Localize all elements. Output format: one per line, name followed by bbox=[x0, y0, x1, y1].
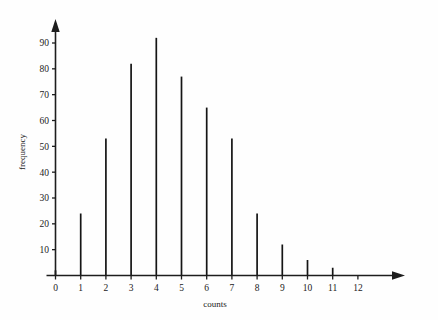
y-axis-tick-label: 90 bbox=[40, 38, 50, 48]
x-axis-arrowhead-icon bbox=[392, 271, 405, 279]
x-axis-tick-label: 8 bbox=[255, 283, 260, 293]
x-axis-tick-label: 0 bbox=[53, 283, 58, 293]
frequency-counts-spike-chart: 102030405060708090 0123456789101112 freq… bbox=[0, 0, 438, 320]
y-axis-tick-label: 80 bbox=[40, 64, 50, 74]
x-axis-tick-label: 9 bbox=[280, 283, 285, 293]
x-axis-tick-label: 7 bbox=[230, 283, 235, 293]
y-axis-tick-label: 40 bbox=[40, 168, 50, 178]
chart-canvas: 102030405060708090 0123456789101112 freq… bbox=[0, 0, 438, 320]
x-axis-tick-label: 2 bbox=[104, 283, 109, 293]
x-axis-tick-label: 10 bbox=[303, 283, 313, 293]
x-axis-tick-group: 0123456789101112 bbox=[53, 276, 363, 294]
y-axis-tick-label: 10 bbox=[40, 245, 50, 255]
y-axis-tick-group: 102030405060708090 bbox=[40, 38, 56, 255]
x-axis-tick-label: 4 bbox=[154, 283, 159, 293]
y-axis-tick-label: 70 bbox=[40, 90, 50, 100]
y-axis-tick-label: 30 bbox=[40, 193, 50, 203]
x-axis-tick-label: 12 bbox=[353, 283, 363, 293]
y-axis-tick-label: 60 bbox=[40, 116, 50, 126]
x-axis-tick-label: 3 bbox=[129, 283, 134, 293]
y-axis-tick-label: 20 bbox=[40, 219, 50, 229]
x-axis-tick-label: 6 bbox=[204, 283, 209, 293]
x-axis-tick-label: 5 bbox=[179, 283, 184, 293]
y-axis-tick-label: 50 bbox=[40, 142, 50, 152]
x-axis-tick-label: 11 bbox=[328, 283, 337, 293]
y-axis-arrowhead-icon bbox=[51, 19, 59, 32]
spike-group bbox=[56, 38, 333, 276]
y-axis-title: frequency bbox=[17, 134, 27, 170]
x-axis-tick-label: 1 bbox=[78, 283, 83, 293]
x-axis-title: counts bbox=[203, 299, 227, 309]
